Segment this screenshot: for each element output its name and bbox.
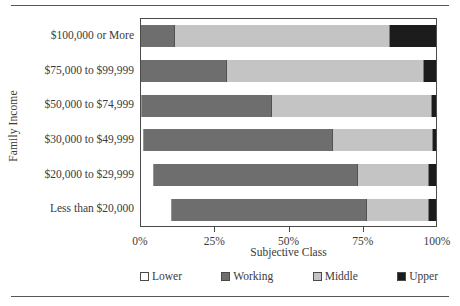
bar-segment-lower bbox=[141, 199, 172, 221]
legend-label: Middle bbox=[325, 270, 358, 282]
x-axis-title: Subjective Class bbox=[140, 246, 437, 258]
legend-label: Upper bbox=[409, 270, 438, 282]
bar-segment-working bbox=[144, 129, 333, 151]
legend-swatch-icon bbox=[397, 272, 406, 281]
bar-segment-upper bbox=[429, 164, 436, 186]
bar-row bbox=[141, 164, 436, 186]
plot-area bbox=[140, 18, 437, 226]
bar-segment-working bbox=[141, 60, 227, 82]
x-axis-tick bbox=[214, 227, 215, 232]
x-axis-line: 0%25%50%75%100% bbox=[140, 226, 437, 227]
x-axis-tick bbox=[363, 227, 364, 232]
bar-segment-middle bbox=[175, 25, 390, 47]
bar-row bbox=[141, 199, 436, 221]
bar-segment-upper bbox=[424, 60, 436, 82]
figure-container: Family Income $100,000 or More$75,000 to… bbox=[0, 0, 460, 306]
bar-segment-middle bbox=[272, 95, 431, 117]
legend-swatch-icon bbox=[313, 272, 322, 281]
legend-item[interactable]: Middle bbox=[313, 270, 358, 282]
y-axis-tick-labels: $100,000 or More$75,000 to $99,999$50,00… bbox=[24, 18, 134, 226]
bars-container bbox=[141, 19, 436, 226]
bar-segment-working bbox=[141, 25, 175, 47]
legend: LowerWorkingMiddleUpper bbox=[140, 270, 438, 282]
bar-segment-upper bbox=[432, 95, 436, 117]
bar-segment-lower bbox=[141, 164, 154, 186]
bar-segment-working bbox=[142, 95, 272, 117]
bar-row bbox=[141, 95, 436, 117]
y-axis-tick-label: $100,000 or More bbox=[51, 18, 134, 53]
bar-row bbox=[141, 60, 436, 82]
y-axis-title: Family Income bbox=[7, 56, 19, 196]
legend-item[interactable]: Upper bbox=[397, 270, 438, 282]
bar-segment-working bbox=[154, 164, 358, 186]
bar-segment-middle bbox=[333, 129, 433, 151]
y-axis-tick-label: $20,000 to $29,999 bbox=[45, 157, 134, 192]
x-axis-tick bbox=[289, 227, 290, 232]
bar-segment-upper bbox=[390, 25, 436, 47]
legend-item[interactable]: Lower bbox=[140, 270, 182, 282]
bar-segment-middle bbox=[367, 199, 429, 221]
y-axis-tick-label: $30,000 to $49,999 bbox=[45, 122, 134, 157]
legend-label: Working bbox=[233, 270, 273, 282]
top-rule bbox=[11, 5, 449, 6]
y-axis-tick-label: $75,000 to $99,999 bbox=[45, 53, 134, 88]
bar-segment-upper bbox=[433, 129, 436, 151]
bar-row bbox=[141, 25, 436, 47]
legend-swatch-icon bbox=[140, 272, 149, 281]
legend-item[interactable]: Working bbox=[221, 270, 273, 282]
y-axis-tick-label: Less than $20,000 bbox=[50, 191, 134, 226]
bar-row bbox=[141, 129, 436, 151]
bar-segment-upper bbox=[429, 199, 436, 221]
legend-swatch-icon bbox=[221, 272, 230, 281]
legend-label: Lower bbox=[152, 270, 182, 282]
y-axis-tick-label: $50,000 to $74,999 bbox=[45, 87, 134, 122]
bar-segment-working bbox=[172, 199, 367, 221]
bar-segment-middle bbox=[227, 60, 425, 82]
bottom-rule bbox=[11, 296, 449, 297]
bar-segment-middle bbox=[358, 164, 429, 186]
